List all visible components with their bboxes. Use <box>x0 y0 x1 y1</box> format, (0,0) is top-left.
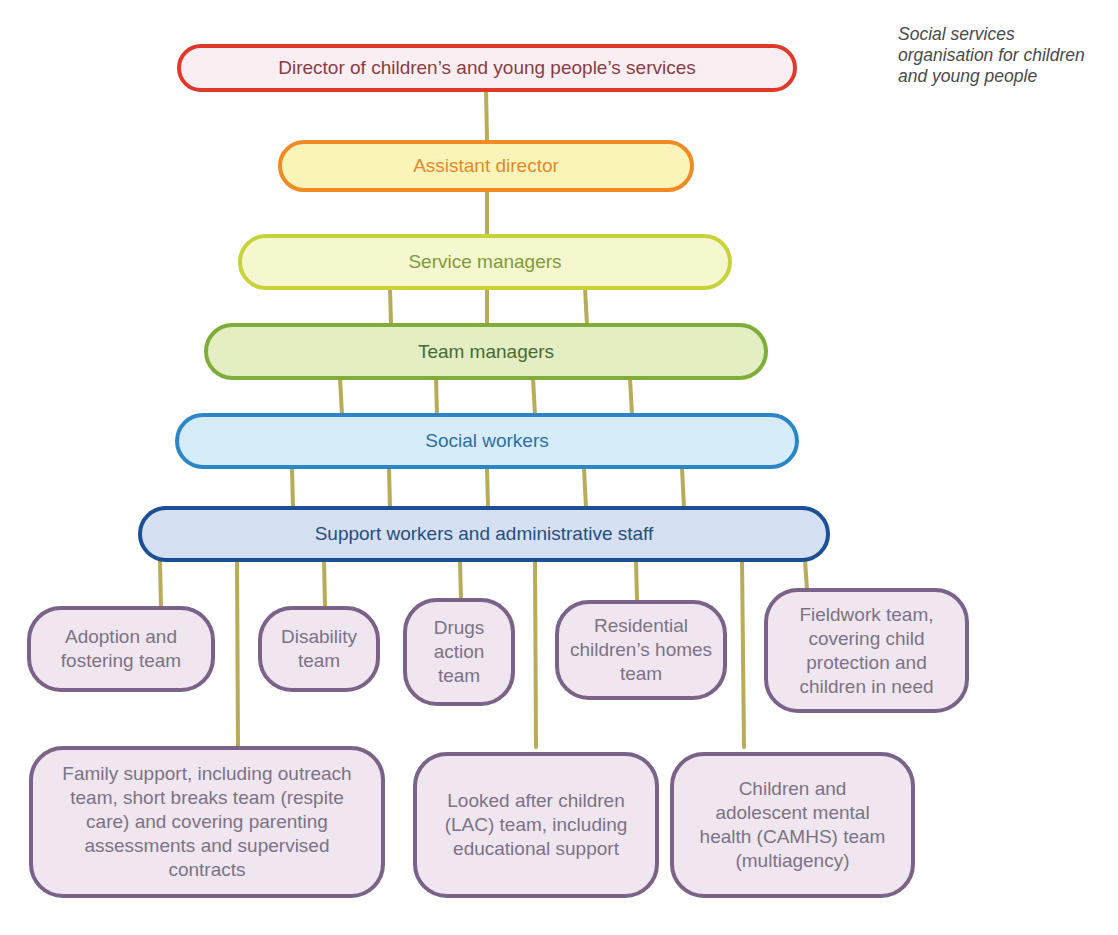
team-drugs-action: Drugs action team <box>403 598 515 706</box>
org-chart: Director of children’s and young people’… <box>0 0 1118 935</box>
social-workers-box: Social workers <box>175 413 799 469</box>
team-label: Children and adolescent mental health (C… <box>692 777 893 873</box>
team-label: Family support, including outreach team,… <box>49 762 365 882</box>
team-disability: Disability team <box>258 606 380 692</box>
service-managers-label: Service managers <box>408 251 561 273</box>
team-managers-label: Team managers <box>418 341 554 363</box>
team-label: Residential children’s homes team <box>567 614 715 686</box>
assistant-director-label: Assistant director <box>413 155 559 177</box>
team-label: Adoption and fostering team <box>39 625 203 673</box>
team-family-support: Family support, including outreach team,… <box>29 746 385 898</box>
support-workers-label: Support workers and administrative staff <box>315 523 654 545</box>
team-residential-homes: Residential children’s homes team <box>555 600 727 700</box>
team-fieldwork: Fieldwork team, covering child protectio… <box>764 588 969 713</box>
chart-caption: Social services organisation for childre… <box>898 24 1108 87</box>
team-label: Looked after children (LAC) team, includ… <box>437 789 635 861</box>
team-label: Fieldwork team, covering child protectio… <box>776 603 957 699</box>
team-label: Drugs action team <box>415 616 503 688</box>
assistant-director-box: Assistant director <box>278 140 694 192</box>
social-workers-label: Social workers <box>425 430 549 452</box>
service-managers-box: Service managers <box>238 234 732 290</box>
team-label: Disability team <box>270 625 368 673</box>
team-managers-box: Team managers <box>204 323 768 380</box>
director-label: Director of children’s and young people’… <box>278 57 696 79</box>
support-workers-box: Support workers and administrative staff <box>138 506 830 562</box>
director-box: Director of children’s and young people’… <box>177 44 797 92</box>
team-camhs: Children and adolescent mental health (C… <box>670 752 915 898</box>
team-looked-after-children: Looked after children (LAC) team, includ… <box>413 752 659 898</box>
team-adoption-fostering: Adoption and fostering team <box>27 606 215 692</box>
